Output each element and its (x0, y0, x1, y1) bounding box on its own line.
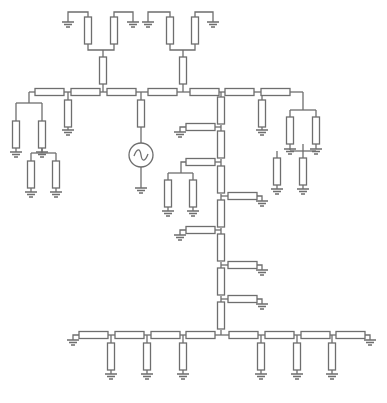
ground-icon (135, 188, 147, 193)
resistor-icon (261, 89, 290, 96)
ground-icon (255, 374, 267, 379)
resistor-icon (186, 159, 215, 166)
resistor-icon (138, 100, 145, 127)
resistor-icon (71, 89, 100, 96)
ground-icon (62, 130, 74, 135)
resistor-icon (300, 158, 307, 185)
ground-icon (271, 189, 283, 194)
ground-icon (256, 201, 268, 206)
ground-icon (141, 374, 153, 379)
resistor-icon (218, 200, 225, 227)
circuit-diagram (0, 0, 387, 403)
ground-icon (177, 374, 189, 379)
wire (88, 44, 114, 50)
resistor-icon (100, 57, 107, 84)
resistor-icon (35, 89, 64, 96)
resistor-icon (218, 268, 225, 295)
wire (180, 230, 186, 235)
resistors (13, 17, 366, 370)
ground-icon (25, 192, 37, 197)
ground-icon (127, 22, 139, 27)
ground-icon (62, 22, 74, 27)
resistor-icon (115, 332, 144, 339)
ground-icon (162, 211, 174, 216)
resistor-icon (148, 89, 177, 96)
resistor-icon (258, 343, 265, 370)
resistor-icon (274, 158, 281, 185)
ground-icon (174, 132, 186, 137)
ground-icon (364, 340, 376, 345)
ground-icon (10, 152, 22, 157)
resistor-icon (228, 193, 257, 200)
resistor-icon (28, 161, 35, 188)
ground-icon (67, 340, 79, 345)
ground-icon (256, 130, 268, 135)
resistor-icon (186, 332, 215, 339)
ground-icon (50, 192, 62, 197)
resistor-icon (301, 332, 330, 339)
wire (180, 127, 186, 132)
resistor-icon (180, 57, 187, 84)
resistor-icon (190, 89, 219, 96)
resistor-icon (151, 332, 180, 339)
ground-icon (256, 270, 268, 275)
ground-icon (142, 22, 154, 27)
resistor-icon (228, 262, 257, 269)
resistor-icon (218, 97, 225, 124)
resistor-icon (167, 17, 174, 44)
resistor-icon (165, 180, 172, 207)
resistor-icon (218, 234, 225, 261)
ground-icon (326, 374, 338, 379)
ground-icon (291, 374, 303, 379)
resistor-icon (85, 17, 92, 44)
resistor-icon (228, 296, 257, 303)
resistor-icon (186, 227, 215, 234)
ac-source-icon (129, 143, 153, 167)
resistor-icon (259, 100, 266, 127)
resistor-icon (79, 332, 108, 339)
resistor-icon (180, 343, 187, 370)
ground-icon (297, 189, 309, 194)
resistor-icon (329, 343, 336, 370)
resistor-icon (144, 343, 151, 370)
resistor-icon (111, 17, 118, 44)
wire (170, 44, 195, 50)
ground-icon (187, 211, 199, 216)
resistor-icon (65, 100, 72, 127)
resistor-icon (313, 117, 320, 144)
resistor-icon (218, 131, 225, 158)
resistor-icon (107, 89, 136, 96)
ground-icon (256, 304, 268, 309)
resistor-icon (336, 332, 365, 339)
wire (73, 335, 79, 340)
resistor-icon (192, 17, 199, 44)
resistor-icon (190, 180, 197, 207)
resistor-icon (265, 332, 294, 339)
resistor-icon (287, 117, 294, 144)
ground-icon (105, 374, 117, 379)
resistor-icon (218, 166, 225, 193)
resistor-icon (53, 161, 60, 188)
ground-icon (174, 235, 186, 240)
resistor-icon (294, 343, 301, 370)
resistor-icon (186, 124, 215, 131)
resistor-icon (108, 343, 115, 370)
resistor-icon (13, 121, 20, 148)
resistor-icon (218, 302, 225, 329)
resistor-icon (225, 89, 254, 96)
resistor-icon (229, 332, 258, 339)
wire (181, 162, 186, 173)
ground-icon (207, 22, 219, 27)
resistor-icon (39, 121, 46, 148)
